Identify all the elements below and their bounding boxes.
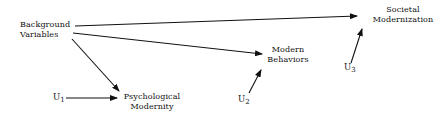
arrow-background-to-psych bbox=[72, 39, 119, 91]
node-label-line1: Modern bbox=[262, 45, 314, 55]
arrow-u3-to-societal bbox=[351, 29, 362, 63]
node-label-line2: Modernity bbox=[116, 102, 188, 112]
node-modern-behaviors: Modern Behaviors bbox=[262, 45, 314, 65]
node-psychological-modernity: Psychological Modernity bbox=[116, 92, 188, 112]
node-label-line2: Variables bbox=[20, 30, 70, 40]
arrow-background-to-behaviors bbox=[73, 33, 262, 54]
node-background-variables: Background Variables bbox=[20, 20, 70, 40]
u1-subscript: 1 bbox=[60, 96, 64, 104]
arrow-background-to-societal bbox=[75, 16, 357, 26]
node-u3: U3 bbox=[344, 62, 356, 73]
node-label-line1: Societal bbox=[360, 5, 446, 15]
node-u2: U2 bbox=[238, 94, 250, 105]
path-diagram: Background Variables Societal Modernizat… bbox=[0, 0, 447, 120]
node-label-line1: Background bbox=[20, 20, 70, 30]
node-u1: U1 bbox=[53, 92, 65, 103]
node-label-line2: Modernization bbox=[360, 15, 446, 25]
u2-subscript: 2 bbox=[245, 98, 249, 106]
node-societal-modernization: Societal Modernization bbox=[360, 5, 446, 25]
node-label-line1: Psychological bbox=[116, 92, 188, 102]
u3-subscript: 3 bbox=[351, 66, 355, 74]
arrow-u2-to-behaviors bbox=[249, 70, 261, 93]
node-label-line2: Behaviors bbox=[262, 55, 314, 65]
